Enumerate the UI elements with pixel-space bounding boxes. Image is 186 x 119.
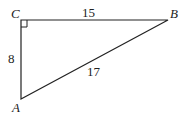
triangle-diagram: C B A 15 8 17 [0,0,186,119]
vertex-label-b: B [170,6,178,21]
vertex-label-a: A [11,100,20,115]
side-label-ca: 8 [8,51,15,66]
side-label-cb: 15 [82,5,95,20]
right-angle-marker-icon [21,20,27,27]
vertex-label-c: C [11,6,20,21]
triangle-abc [21,20,168,99]
side-label-ab: 17 [87,64,101,79]
